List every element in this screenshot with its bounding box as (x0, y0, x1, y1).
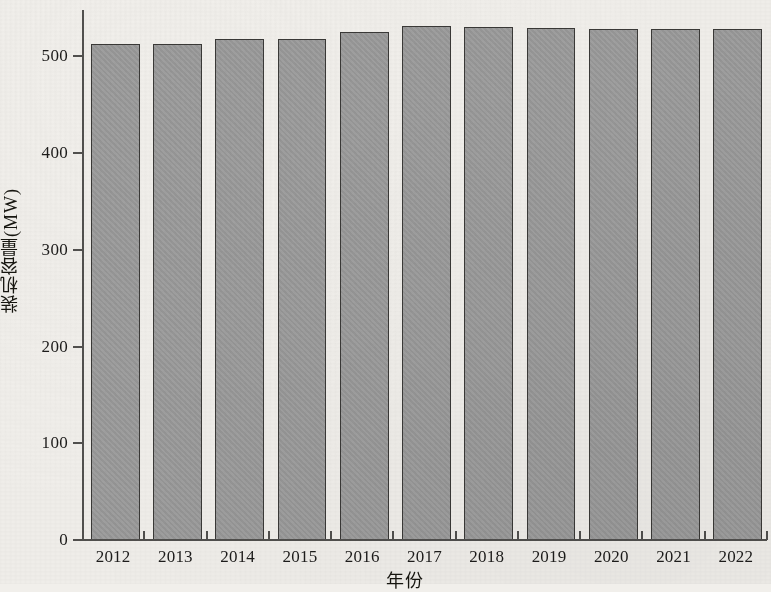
x-axis-tick-label: 2013 (144, 548, 206, 565)
bar-2020 (589, 29, 638, 540)
y-axis-tick (73, 346, 82, 348)
x-axis-tick-label: 2012 (82, 548, 144, 565)
bar-2014 (215, 39, 264, 540)
x-axis-title: 年份 (386, 566, 424, 592)
bar-2012 (91, 44, 140, 540)
x-axis-line (82, 539, 767, 541)
y-axis-tick (73, 55, 82, 57)
x-axis-tick-label: 2016 (331, 548, 393, 565)
x-axis-tick-label: 2021 (642, 548, 704, 565)
x-axis-tick (579, 531, 581, 540)
plot-area (82, 10, 766, 540)
x-axis-tick (704, 531, 706, 540)
y-axis-tick (73, 249, 82, 251)
x-axis-tick (268, 531, 270, 540)
x-axis-tick-label: 2018 (456, 548, 518, 565)
x-axis-tick-label: 2017 (393, 548, 455, 565)
x-axis-tick (766, 531, 768, 540)
y-axis-title: 装机容量(MW) (0, 188, 28, 313)
y-axis-tick-label: 200 (0, 338, 68, 355)
x-axis-tick (517, 531, 519, 540)
x-axis-tick (330, 531, 332, 540)
y-axis-tick-label: 400 (0, 144, 68, 161)
y-axis-tick-label: 0 (0, 531, 68, 548)
bar-2015 (278, 39, 327, 540)
y-axis-tick-label: 100 (0, 434, 68, 451)
x-axis-tick (143, 531, 145, 540)
bar-2018 (464, 27, 513, 540)
y-axis-tick (73, 442, 82, 444)
bar-2013 (153, 44, 202, 540)
bar-2017 (402, 26, 451, 540)
y-axis-line (82, 10, 84, 541)
bar-2022 (713, 29, 762, 540)
x-axis-tick-label: 2014 (207, 548, 269, 565)
x-axis-tick (392, 531, 394, 540)
x-axis-tick (641, 531, 643, 540)
y-axis-tick (73, 152, 82, 154)
y-axis-tick (73, 539, 82, 541)
bar-2019 (527, 28, 576, 540)
x-axis-tick-label: 2015 (269, 548, 331, 565)
bar-2016 (340, 32, 389, 540)
x-axis-tick (206, 531, 208, 540)
x-axis-tick-label: 2022 (705, 548, 767, 565)
x-axis-tick (455, 531, 457, 540)
x-axis-tick-label: 2019 (518, 548, 580, 565)
x-axis-tick-label: 2020 (580, 548, 642, 565)
bar-2021 (651, 29, 700, 540)
y-axis-tick-label: 500 (0, 47, 68, 64)
